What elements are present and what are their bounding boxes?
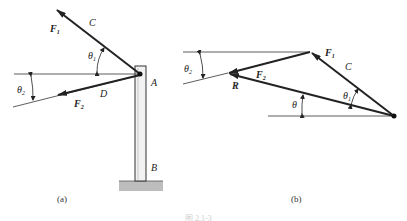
label-f1-a: F1 (49, 23, 60, 35)
joint-a (138, 72, 143, 77)
label-theta: θ (292, 99, 297, 110)
label-d-a: D (99, 88, 108, 99)
label-f2-a: F2 (73, 98, 84, 110)
angle-theta1-arc (97, 48, 104, 72)
angle-theta2-arc (31, 76, 33, 100)
label-a: A (150, 77, 158, 88)
label-r: R (231, 80, 239, 91)
label-c-b: C (345, 61, 352, 72)
label-theta2-b: θ2 (184, 63, 192, 75)
panel-b: θ2 F2 R F1 C θ θ1 (b) (183, 47, 397, 204)
force-f2-arrow (58, 75, 140, 95)
label-f2-b: F2 (255, 69, 266, 81)
angle-theta2-arc-b (200, 54, 203, 78)
origin-point (392, 114, 397, 119)
panel-a-label: (a) (57, 194, 67, 204)
panel-b-label: (b) (291, 194, 302, 204)
label-f1-b: F1 (324, 47, 335, 59)
label-c-a: C (89, 17, 96, 28)
label-theta2-a: θ2 (17, 84, 25, 96)
label-theta1-a: θ1 (88, 50, 96, 62)
force-f2-arrow-b (229, 52, 310, 73)
figure-caption: 图 2.1-3 (185, 214, 212, 221)
force-f1-arrow-b (312, 53, 394, 116)
force-f1-arrow (57, 10, 140, 74)
angle-theta1-arc-b (351, 89, 358, 105)
label-theta1-b: θ1 (343, 90, 351, 102)
resultant-r-arrow (230, 74, 394, 116)
ground-base (119, 181, 163, 191)
panel-a: F1 C θ1 θ2 D F2 A B (a) (13, 10, 163, 204)
angle-theta-arc (302, 95, 303, 114)
pole-ab (135, 66, 146, 181)
force-diagram: F1 C θ1 θ2 D F2 A B (a) θ2 F2 R F1 C θ θ… (0, 0, 407, 221)
label-b: B (151, 162, 157, 173)
